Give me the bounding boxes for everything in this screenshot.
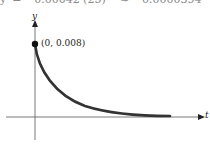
x-axis-label: t (205, 110, 209, 120)
y-axis-label: y (32, 11, 37, 21)
decay-curve (35, 44, 170, 116)
initial-point-marker (32, 41, 38, 47)
x-axis-arrow-icon (198, 114, 205, 120)
chart-plot (0, 0, 210, 150)
y-axis-arrow-icon (32, 20, 38, 27)
point-annotation: (0, 0.008) (41, 38, 85, 48)
